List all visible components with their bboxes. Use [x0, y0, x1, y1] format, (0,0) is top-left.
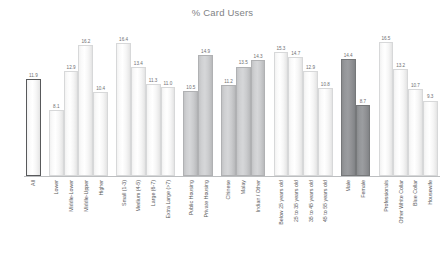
x-axis-label: Malay	[241, 166, 246, 180]
bar-value-label: 12.9	[306, 66, 315, 71]
bar-value-label: 10.8	[321, 83, 330, 88]
x-axis-label: Higher	[98, 164, 103, 180]
x-axis-label-text: Middle-Upper	[84, 180, 89, 212]
x-axis-label-slot: Public Housing	[183, 178, 198, 262]
x-axis-label-slot: Male	[341, 178, 356, 262]
x-axis-label-text: Indian / Other	[256, 180, 261, 212]
x-axis-label: Lower	[54, 166, 59, 180]
bar-value-label: 10.7	[411, 84, 420, 89]
x-axis-label: Middle-Upper	[84, 148, 89, 180]
x-axis-label-text: Chinese	[226, 180, 231, 199]
bar-value-label: 13.2	[396, 64, 405, 69]
x-axis-label: Female	[361, 162, 366, 180]
x-axis-label-text: Public Housing	[189, 180, 194, 215]
bar-value-label: 11.3	[149, 79, 158, 84]
bar-value-label: 8.1	[53, 105, 59, 110]
bar-chart: % Card Users 11.98.112.916.210.416.413.4…	[0, 0, 445, 264]
x-axis-label-slot: Malay	[236, 178, 251, 262]
x-axis-label-slot: 25 to 35 years old	[288, 178, 303, 262]
x-axis-label-slot: All	[26, 178, 41, 262]
x-axis-label: Middle-Lower	[69, 148, 74, 180]
bar-value-label: 10.5	[186, 86, 195, 91]
bar-value-label: 12.9	[67, 66, 76, 71]
bar-slot: 10.4	[93, 30, 108, 176]
x-axis-label-slot: Medium (4-5)	[131, 178, 146, 262]
x-axis-label-text: Housewife	[428, 180, 433, 205]
bar[interactable]: 11.9	[26, 79, 41, 176]
x-axis-label: Large (6-7)	[151, 154, 156, 180]
x-axis-label: 45 to 55 years old	[323, 138, 328, 180]
x-axis-label-text: Female	[361, 180, 366, 198]
bar-slot: 13.5	[236, 30, 251, 176]
x-axis-label-slot: Chinese	[221, 178, 236, 262]
x-axis-label-text: Professionals	[384, 180, 389, 212]
x-axis-label-text: 35 to 45 years old	[308, 180, 313, 222]
x-axis-label-slot: Indian / Other	[251, 178, 266, 262]
x-axis-label-slot: Higher	[93, 178, 108, 262]
x-axis-label: Male	[346, 169, 351, 180]
x-axis-label-slot: Below 25 years old	[274, 178, 289, 262]
x-axis-label-text: Malay	[241, 180, 246, 194]
bar-value-label: 14.7	[291, 52, 300, 57]
bar-value-label: 14.3	[254, 55, 263, 60]
x-axis-label: Small (1-3)	[121, 154, 126, 180]
bar-slot: 8.7	[356, 30, 371, 176]
x-axis-label: Below 25 years old	[279, 135, 284, 180]
x-axis-label-slot: Blue Collar	[408, 178, 423, 262]
x-axis-label-slot: Extra Large (>7)	[161, 178, 176, 262]
x-axis-label-text: Medium (4-5)	[136, 180, 141, 212]
x-axis-label-text: Large (6-7)	[151, 180, 156, 206]
x-axis-label: Medium (4-5)	[136, 149, 141, 181]
x-axis-label-slot: 45 to 55 years old	[318, 178, 333, 262]
chart-title: % Card Users	[0, 7, 445, 18]
x-axis-label: 35 to 45 years old	[308, 138, 313, 180]
bar-value-label: 13.5	[239, 61, 248, 66]
x-axis-label-slot: Other White Collar	[393, 178, 408, 262]
x-axis-label-text: Higher	[98, 180, 103, 196]
x-axis-label-text: Other White Collar	[398, 180, 403, 224]
bar-value-label: 9.3	[427, 95, 433, 100]
x-axis-label-text: Middle-Lower	[69, 180, 74, 212]
x-axis-label-slot: Female	[356, 178, 371, 262]
bar-slot: 11.2	[221, 30, 236, 176]
bar-value-label: 16.5	[381, 37, 390, 42]
x-axis-labels: AllLowerMiddle-LowerMiddle-UpperHigherSm…	[26, 178, 438, 262]
bar-slot: 8.1	[49, 30, 64, 176]
x-axis-label-slot: Housewife	[423, 178, 438, 262]
x-axis-label-text: 45 to 55 years old	[323, 180, 328, 222]
x-axis-label-text: Male	[346, 180, 351, 191]
bar-slot: 14.4	[341, 30, 356, 176]
bar[interactable]: 10.4	[93, 92, 108, 176]
bar[interactable]: 13.5	[236, 67, 251, 177]
x-axis-label: Other White Collar	[398, 136, 403, 180]
x-axis-label-text: Lower	[54, 180, 59, 194]
x-axis-label-slot: Professionals	[379, 178, 394, 262]
x-axis-label-slot: 35 to 45 years old	[303, 178, 318, 262]
bar-value-label: 11.0	[164, 82, 173, 87]
bar-value-label: 16.2	[81, 40, 90, 45]
x-axis-label-text: All	[31, 180, 36, 186]
bar-value-label: 10.4	[96, 87, 105, 92]
x-axis-label: Private Housing	[203, 143, 208, 180]
x-axis-label-text: Small (1-3)	[121, 180, 126, 206]
x-axis-label-slot: Lower	[49, 178, 64, 262]
x-axis-label-slot: Small (1-3)	[116, 178, 131, 262]
x-axis-label: Public Housing	[189, 145, 194, 180]
bar-value-label: 14.9	[201, 50, 210, 55]
x-axis-label-slot: Large (6-7)	[146, 178, 161, 262]
bar-value-label: 11.2	[224, 80, 233, 85]
x-axis-label: Indian / Other	[256, 148, 261, 180]
x-axis-label: Chinese	[226, 161, 231, 180]
x-axis-label: All	[31, 174, 36, 180]
x-axis-label: Housewife	[428, 155, 433, 180]
x-axis-label-slot: Middle-Lower	[64, 178, 79, 262]
x-axis-label-text: 25 to 35 years old	[294, 180, 299, 222]
x-axis-label: Blue Collar	[413, 154, 418, 180]
x-axis-label: 25 to 35 years old	[294, 138, 299, 180]
x-axis-label-slot: Middle-Upper	[78, 178, 93, 262]
bar[interactable]: 14.4	[341, 59, 356, 176]
bar-value-label: 15.3	[276, 47, 285, 52]
x-axis-label-text: Private Housing	[203, 180, 208, 217]
x-axis-label-text: Below 25 years old	[279, 180, 284, 225]
bar-value-label: 8.7	[360, 100, 366, 105]
